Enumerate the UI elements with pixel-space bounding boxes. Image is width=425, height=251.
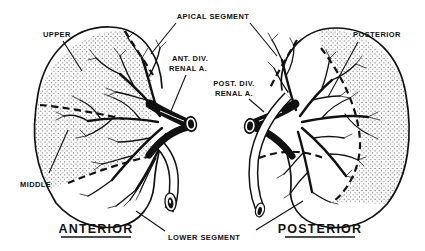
label-ant-div-line2: RENAL A.	[169, 64, 207, 73]
title-anterior-view: ANTERIOR	[59, 222, 134, 236]
leader-lower-left	[136, 211, 165, 231]
label-post-div-line2: RENAL A.	[215, 89, 253, 98]
leader-apical-left	[151, 23, 176, 54]
leader-post-div	[249, 99, 264, 112]
renal-segments-figure: UPPER APICAL SEGMENT ANT. DIV. RENAL A. …	[0, 0, 425, 251]
left-ureter	[157, 142, 177, 212]
label-upper-segment: UPPER	[43, 30, 71, 39]
title-posterior-view: POSTERIOR	[278, 222, 362, 236]
label-ant-div-line1: ANT. DIV.	[172, 54, 208, 63]
label-posterior-segment: POSTERIOR	[353, 30, 401, 39]
left-renal-artery-trunk	[149, 104, 198, 155]
diagram-canvas: UPPER APICAL SEGMENT ANT. DIV. RENAL A. …	[0, 0, 425, 251]
label-lower-segment: LOWER SEGMENT	[168, 233, 240, 242]
label-apical-segment: APICAL SEGMENT	[177, 12, 250, 21]
right-kidney-posterior-view	[243, 28, 409, 228]
leader-ant-div	[171, 75, 186, 111]
label-post-div-line1: POST. DIV.	[213, 79, 255, 88]
label-middle-segment: MIDDLE	[20, 180, 51, 189]
